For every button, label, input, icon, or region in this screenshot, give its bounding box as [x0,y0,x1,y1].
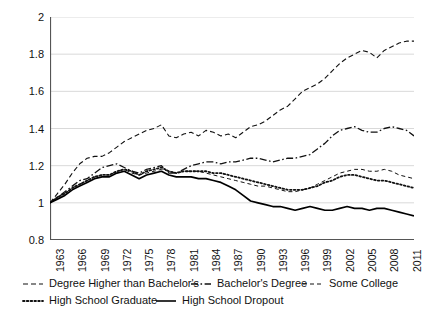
x-tick-label: 2002 [344,249,356,272]
chart-figure: 0.811.21.41.61.82 1963196619691972197519… [0,0,424,316]
x-tick-label: 1987 [232,249,244,272]
legend-label: Degree Higher than Bachelor's [49,278,199,289]
legend-line-swatch-icon [302,279,324,289]
x-tick-label: 1984 [210,249,222,272]
plot-area [50,17,414,240]
legend-row: Degree Higher than Bachelor'sBachelor's … [0,278,424,294]
y-tick-label: 1 [38,197,44,209]
legend-line-swatch-icon [22,279,44,289]
legend-row: High School GraduateHigh School Dropout [0,295,424,311]
x-tick-label: 2005 [366,249,378,272]
legend-line-swatch-icon [155,296,177,306]
legend-label: Bachelor's Degree [217,278,307,289]
series-line-0 [50,41,414,203]
y-tick-label: 1.8 [29,48,44,60]
x-tick-label: 1966 [76,249,88,272]
x-axis-tick-labels: 1963196619691972197519781981198419871990… [0,240,424,276]
legend-label: High School Dropout [182,295,284,306]
x-tick-label: 1996 [299,249,311,272]
x-tick-label: 2011 [411,249,423,272]
x-tick-label: 2008 [388,249,400,272]
x-tick-label: 1969 [99,249,111,272]
x-tick-label: 1975 [143,249,155,272]
legend-item[interactable]: High School Graduate [22,295,157,306]
series-line-4 [50,171,414,216]
legend-label: Some College [329,278,398,289]
series-line-1 [50,127,414,203]
legend-item[interactable]: Bachelor's Degree [190,278,307,289]
x-tick-label: 1990 [255,249,267,272]
y-tick-label: 1.4 [29,123,44,135]
legend-line-swatch-icon [22,296,44,306]
legend-item[interactable]: High School Dropout [155,295,284,306]
legend-item[interactable]: Degree Higher than Bachelor's [22,278,199,289]
legend-line-swatch-icon [190,279,212,289]
x-tick-label: 1981 [188,249,200,272]
chart-legend: Degree Higher than Bachelor'sBachelor's … [0,278,424,316]
x-tick-label: 1978 [165,249,177,272]
y-tick-label: 1.2 [29,160,44,172]
legend-label: High School Graduate [49,295,157,306]
y-tick-label: 1.6 [29,85,44,97]
x-tick-label: 1963 [54,249,66,272]
x-tick-label: 1972 [121,249,133,272]
legend-item[interactable]: Some College [302,278,398,289]
y-tick-label: 2 [38,11,44,23]
x-tick-label: 1993 [277,249,289,272]
chart-canvas [50,17,414,240]
series-line-3 [50,168,414,203]
x-tick-label: 1999 [321,249,333,272]
